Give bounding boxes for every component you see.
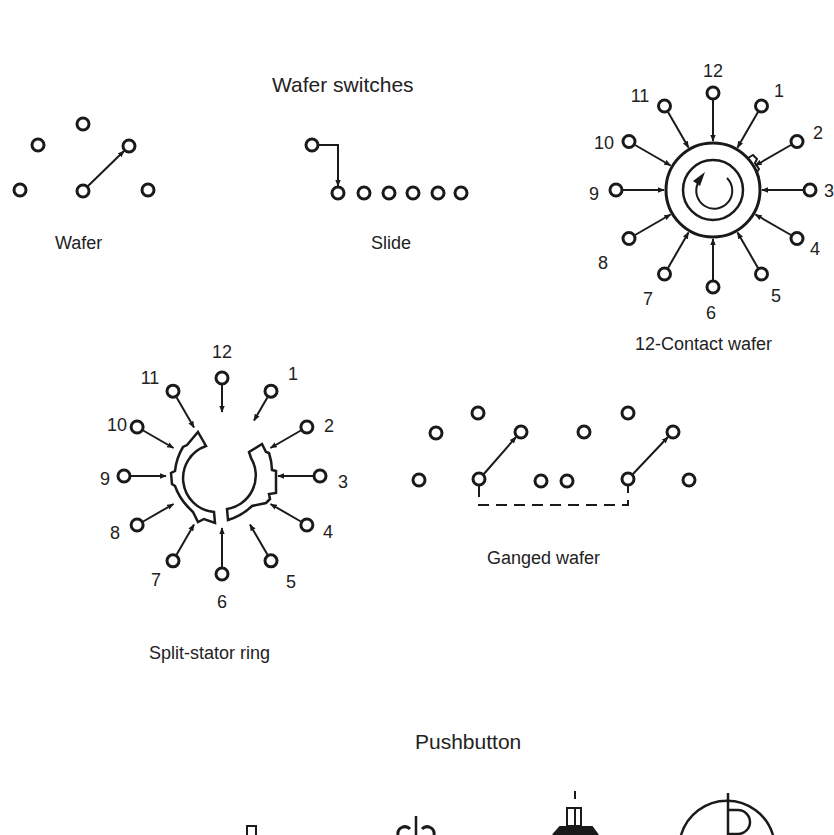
contact-label: 8 (110, 523, 120, 544)
contact-label: 11 (631, 86, 650, 107)
contact-terminal (32, 139, 44, 151)
contact-arrow-icon (755, 215, 791, 236)
wiper-arrow-icon (483, 437, 516, 475)
contact-label: 5 (771, 286, 781, 307)
caption-wafer: Wafer (55, 233, 102, 254)
contact-terminal (413, 474, 425, 486)
contact-arrow-icon (143, 431, 173, 449)
contact-label: 9 (100, 469, 110, 490)
contact-label: 2 (813, 123, 823, 144)
contact-arrow-icon (254, 397, 268, 420)
ganged-wafer-diagram (413, 407, 695, 505)
contact-arrow-icon (668, 112, 689, 148)
contact-label: 10 (107, 415, 127, 436)
caption-ganged-wafer: Ganged wafer (487, 548, 600, 569)
section-title-pushbutton: Pushbutton (415, 730, 521, 754)
slide-arrow-icon (318, 145, 338, 186)
contact-label: 7 (151, 570, 161, 591)
pushbutton-diagrams (247, 791, 773, 835)
contact-arrow-icon (143, 504, 173, 522)
contact-arrow-icon (738, 112, 759, 148)
contact-label: 6 (217, 592, 227, 613)
slide-diagram (306, 139, 467, 199)
contact-label: 4 (323, 522, 333, 543)
contact-terminal (535, 475, 547, 487)
contact-label: 5 (286, 572, 296, 593)
contact-terminal (383, 187, 395, 199)
contact-terminal (77, 118, 89, 130)
contact-label: 2 (324, 416, 334, 437)
contact-terminal (358, 187, 370, 199)
contact-terminal (578, 426, 590, 438)
contact-label: 3 (338, 472, 348, 493)
contact-arrow-icon (270, 504, 300, 522)
wafer-diagram (14, 118, 154, 197)
pushbutton-symbol-3 (553, 791, 598, 835)
contact-terminal (216, 568, 228, 580)
contact-arrow-icon (755, 145, 791, 166)
contact-label: 6 (706, 303, 716, 324)
contact-terminal (756, 268, 768, 280)
contact-arrow-icon (250, 524, 268, 554)
contact-terminal (791, 233, 803, 245)
contact-label: 10 (594, 133, 614, 154)
wiper-arrow-icon (87, 151, 124, 187)
contact-terminal (610, 184, 622, 196)
contact-terminal (756, 100, 768, 112)
contact-terminal (301, 421, 313, 433)
contact-terminal (131, 421, 143, 433)
common-terminal (306, 139, 318, 151)
caption-split-stator-ring: Split-stator ring (149, 643, 270, 664)
contact-label: 4 (810, 239, 820, 260)
gang-link-dashed (479, 486, 628, 505)
contact-terminal (216, 372, 228, 384)
contact-terminal (14, 184, 26, 196)
contact-terminal (791, 136, 803, 148)
contact-terminal (707, 281, 719, 293)
contact-terminal (332, 187, 344, 199)
contact-terminal (623, 233, 635, 245)
contact-arrow-icon (668, 232, 689, 268)
pushbutton-symbol-2 (398, 816, 434, 835)
rotor-ring (666, 143, 760, 237)
contact-terminal (167, 385, 179, 397)
contact-label: 12 (212, 342, 232, 363)
split-stator-diagram (118, 372, 326, 580)
contact-arrow-icon (635, 145, 671, 166)
contact12-diagram (610, 87, 816, 293)
contact-terminal (515, 426, 527, 438)
contact-arrow-icon (738, 232, 759, 268)
contact-terminal (683, 474, 695, 486)
contact-terminal (561, 475, 573, 487)
contact-terminal (314, 470, 326, 482)
contact-terminal (265, 385, 277, 397)
contact-terminal (659, 268, 671, 280)
contact-label: 7 (643, 289, 653, 310)
contact-terminal (407, 187, 419, 199)
caption-12-contact-wafer: 12-Contact wafer (635, 334, 772, 355)
contact-terminal (707, 87, 719, 99)
contact-terminal (167, 555, 179, 567)
contact-label: 12 (703, 61, 723, 82)
contact-arrow-icon (177, 397, 195, 427)
contact-label: 3 (824, 181, 834, 202)
contact-arrow-icon (270, 431, 300, 449)
contact-label: 1 (288, 364, 298, 385)
contact-terminal (118, 470, 130, 482)
contact-terminal (131, 519, 143, 531)
contact-arrow-icon (177, 524, 195, 554)
contact-terminal (667, 426, 679, 438)
contact-label: 8 (598, 253, 608, 274)
contact-label: 9 (589, 184, 599, 205)
contact-terminal (301, 519, 313, 531)
contact-label: 11 (141, 368, 160, 389)
right-stator-segment (227, 444, 276, 520)
contact-terminal (265, 555, 277, 567)
contact-terminal (804, 184, 816, 196)
pushbutton-symbol-1 (247, 826, 256, 835)
section-title-wafer-switches: Wafer switches (272, 73, 414, 97)
contact-terminal (623, 136, 635, 148)
contact-arrow-icon (635, 215, 671, 236)
left-stator-segment (171, 432, 215, 523)
contact-label: 1 (774, 81, 784, 102)
